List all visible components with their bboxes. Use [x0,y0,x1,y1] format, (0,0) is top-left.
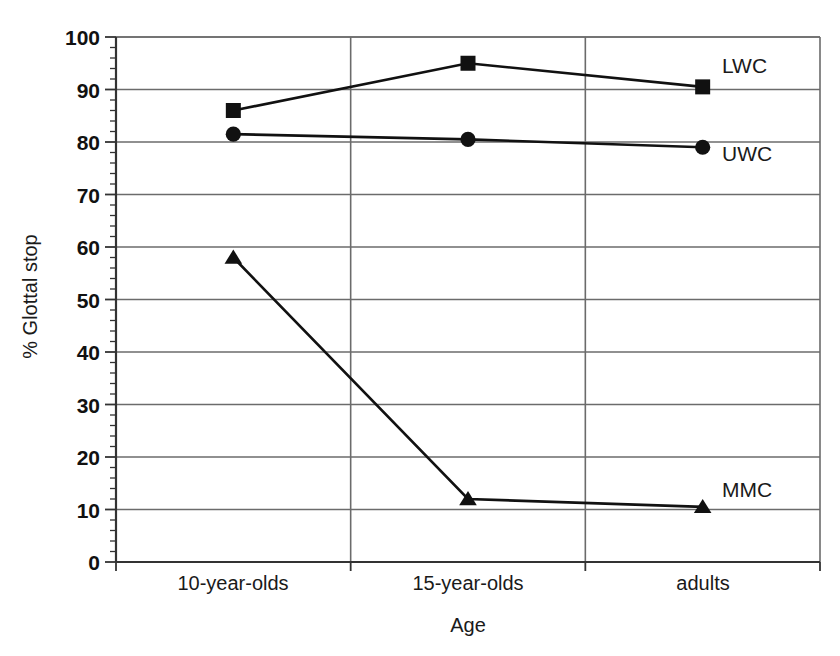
y-axis-minor-ticks [105,37,116,562]
series-markers [225,56,712,513]
marker-uwc [460,132,475,147]
marker-uwc [226,127,241,142]
series-lines [233,63,702,507]
marker-lwc [695,79,710,94]
series-line-mmc [233,258,702,507]
axis-lines [116,37,820,571]
marker-lwc [226,103,241,118]
chart-figure: % Glottal stop 100 90 80 70 60 50 40 30 … [0,0,840,656]
marker-lwc [461,56,476,71]
marker-uwc [695,140,710,155]
horizontal-gridlines [116,37,820,510]
marker-mmc [225,250,243,264]
plot-area [0,0,840,656]
